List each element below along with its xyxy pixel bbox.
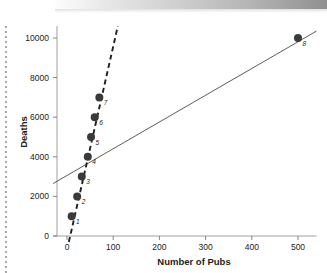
x-axis-tick-label: 0: [65, 242, 70, 252]
x-axis-tick-label: 100: [106, 242, 120, 252]
data-point-marker: [95, 93, 103, 101]
data-point-marker: [73, 192, 81, 200]
data-point-label: 8: [303, 40, 307, 47]
y-axis-title: Deaths: [18, 116, 29, 148]
x-axis-tick-label: 300: [199, 242, 213, 252]
data-point-label: 6: [99, 119, 103, 126]
y-axis-tick-label: 6000: [30, 112, 49, 122]
data-point-marker: [87, 133, 95, 141]
data-point-marker: [294, 34, 302, 42]
x-axis-title: Number of Pubs: [157, 256, 230, 267]
data-point-label: 2: [81, 198, 86, 205]
y-axis-tick-label: 0: [44, 231, 49, 241]
y-axis-ticks: [53, 38, 57, 236]
data-point-label: 1: [76, 218, 80, 225]
data-point-marker: [91, 113, 99, 121]
plot-canvas: 0200040006000800010000 0100200300400500 …: [0, 0, 327, 273]
data-point-label: 3: [86, 178, 90, 185]
data-point-marker: [78, 173, 86, 181]
scatter-plot-figure: 0200040006000800010000 0100200300400500 …: [0, 0, 327, 273]
x-axis-tick-labels: 0100200300400500: [65, 242, 306, 252]
data-point-marker: [84, 153, 92, 161]
x-axis-tick-label: 500: [291, 242, 305, 252]
data-point-markers: [68, 34, 302, 220]
data-point-labels: 12345678: [76, 40, 306, 225]
y-axis-tick-label: 8000: [30, 73, 49, 83]
data-point-label: 4: [92, 158, 96, 165]
data-point-label: 7: [104, 99, 108, 106]
data-point-label: 5: [96, 139, 100, 146]
x-axis-tick-label: 200: [152, 242, 166, 252]
y-axis-tick-label: 10000: [25, 33, 49, 43]
x-axis-ticks: [67, 236, 298, 240]
x-axis-tick-label: 400: [245, 242, 259, 252]
y-axis-tick-label: 2000: [30, 191, 49, 201]
data-point-marker: [68, 212, 76, 220]
y-axis-tick-label: 4000: [30, 152, 49, 162]
